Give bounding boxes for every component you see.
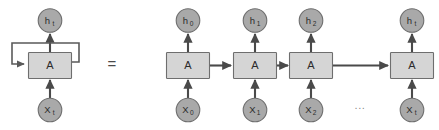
step-1-output-subscript: 1 xyxy=(257,20,261,27)
step-1-output-circle xyxy=(243,9,267,33)
rolled-input-label: X xyxy=(44,104,51,115)
equals-symbol: = xyxy=(108,55,117,72)
step-1-output-label: h xyxy=(250,15,255,26)
step-2-output-label: h xyxy=(306,15,311,26)
rolled-output-circle xyxy=(38,9,62,33)
step-1-input-label: X xyxy=(249,104,256,115)
step-2-input-subscript: 2 xyxy=(313,109,317,116)
unrolled-step-0: A h 0 X 0 xyxy=(167,9,210,122)
step-0-input-subscript: 0 xyxy=(190,109,194,116)
step-t-input-subscript: t xyxy=(415,109,417,116)
diagram-canvas: A h t X t = A h 0 xyxy=(0,0,439,130)
rolled-input-subscript: t xyxy=(53,109,55,116)
unrolled-rnn: A h 0 X 0 A h 1 X 1 xyxy=(167,9,434,122)
step-0-output-subscript: 0 xyxy=(190,20,194,27)
timestep-ellipsis: ... xyxy=(355,99,366,111)
step-t-output-subscript: t xyxy=(414,20,416,27)
step-0-cell-label: A xyxy=(184,59,192,71)
rolled-cell-label: A xyxy=(46,59,54,71)
rolled-rnn: A h t X t xyxy=(12,9,79,122)
rolled-output-subscript: t xyxy=(52,20,54,27)
rolled-output-label: h xyxy=(45,15,50,26)
step-2-output-subscript: 2 xyxy=(313,20,317,27)
step-0-input-label: X xyxy=(182,104,189,115)
step-t-output-label: h xyxy=(407,15,412,26)
unrolled-step-t: A h t X t xyxy=(391,9,434,122)
step-2-input-label: X xyxy=(305,104,312,115)
unrolled-step-2: A h 2 X 2 xyxy=(290,9,333,122)
step-0-output-label: h xyxy=(183,15,188,26)
unrolled-step-1: A h 1 X 1 xyxy=(234,9,277,122)
step-t-cell-label: A xyxy=(408,59,416,71)
step-1-cell-label: A xyxy=(251,59,259,71)
step-2-output-circle xyxy=(299,9,323,33)
rnn-diagram: A h t X t = A h 0 xyxy=(0,0,439,130)
step-0-output-circle xyxy=(176,9,200,33)
step-t-output-circle xyxy=(400,9,424,33)
step-2-cell-label: A xyxy=(307,59,315,71)
step-1-input-subscript: 1 xyxy=(257,109,261,116)
step-t-input-label: X xyxy=(406,104,413,115)
